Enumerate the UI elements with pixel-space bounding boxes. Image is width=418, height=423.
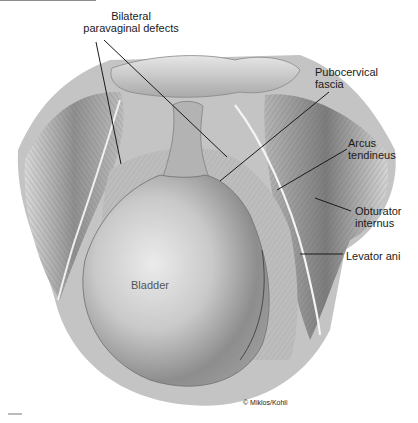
label-line-1: Bilateral — [68, 10, 194, 22]
label-line-1: Pubocervical — [315, 66, 378, 78]
label-obturator-internus: Obturator internus — [355, 205, 401, 229]
label-bladder: Bladder — [131, 279, 169, 291]
anatomical-illustration: Bilateral paravaginal defects Pubocervic… — [0, 0, 418, 423]
label-bilateral-paravaginal-defects: Bilateral paravaginal defects — [68, 10, 194, 34]
label-line-1: Arcus — [348, 137, 396, 149]
label-arcus-tendineus: Arcus tendineus — [348, 137, 396, 161]
label-line-2: paravaginal defects — [68, 22, 194, 34]
copyright-credit: © Miklos/Kohli — [243, 399, 287, 406]
label-line-2: tendineus — [348, 149, 396, 161]
label-levator-ani: Levator ani — [346, 250, 400, 262]
label-line-2: internus — [355, 217, 401, 229]
label-line-1: Levator ani — [346, 250, 400, 262]
figure-marker — [8, 413, 22, 415]
label-line-1: Obturator — [355, 205, 401, 217]
label-line-2: fascia — [315, 78, 378, 90]
label-pubocervical-fascia: Pubocervical fascia — [315, 66, 378, 90]
